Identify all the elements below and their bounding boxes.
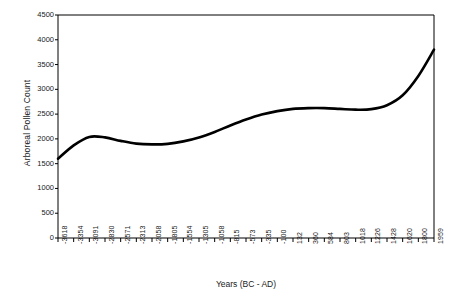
x-tick-marks — [58, 238, 434, 242]
axes-group — [58, 15, 434, 238]
series-line-arboreal-pollen-count — [58, 50, 434, 159]
pollen-count-line-chart: Arboreal Pollen Count 050010001500200025… — [0, 0, 449, 298]
plot-area — [0, 0, 449, 298]
